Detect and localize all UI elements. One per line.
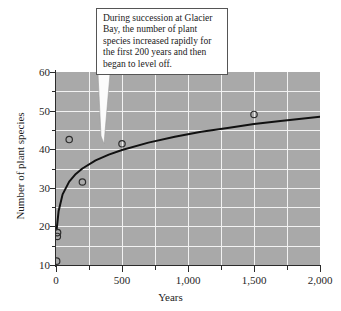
- x-axis-tick-label: 1,500: [229, 275, 279, 286]
- x-axis-title: Years: [0, 291, 341, 303]
- callout-leader: [96, 74, 136, 144]
- x-axis-tick-label: 1,000: [163, 275, 213, 286]
- y-axis-tick-label: 60: [16, 67, 50, 78]
- x-axis-tick-label: 500: [97, 275, 147, 286]
- data-point: [56, 258, 60, 264]
- x-axis-tick-label: 0: [31, 275, 81, 286]
- x-axis-tick: [320, 266, 321, 272]
- x-axis-minor-tick: [287, 266, 288, 270]
- data-point: [79, 179, 85, 185]
- succession-callout-box: During succession at Glacier Bay, the nu…: [96, 8, 228, 75]
- y-axis-title: Number of plant species: [14, 86, 26, 246]
- data-point-group: [56, 111, 257, 264]
- x-axis-minor-tick: [221, 266, 222, 270]
- x-axis-minor-tick: [155, 266, 156, 270]
- x-axis-tick: [122, 266, 123, 272]
- data-point: [251, 111, 257, 117]
- data-point: [66, 136, 72, 142]
- x-axis-tick: [56, 266, 57, 272]
- callout-text: During succession at Glacier Bay, the nu…: [103, 13, 212, 69]
- chart-figure: 60 50 40 30 20 10 0 500 1,000 1,500 2,00…: [0, 0, 341, 311]
- x-axis-tick: [188, 266, 189, 272]
- x-axis-minor-tick: [89, 266, 90, 270]
- y-axis-tick-label: 10: [16, 260, 50, 271]
- x-axis-tick: [254, 266, 255, 272]
- x-axis-tick-label: 2,000: [295, 275, 341, 286]
